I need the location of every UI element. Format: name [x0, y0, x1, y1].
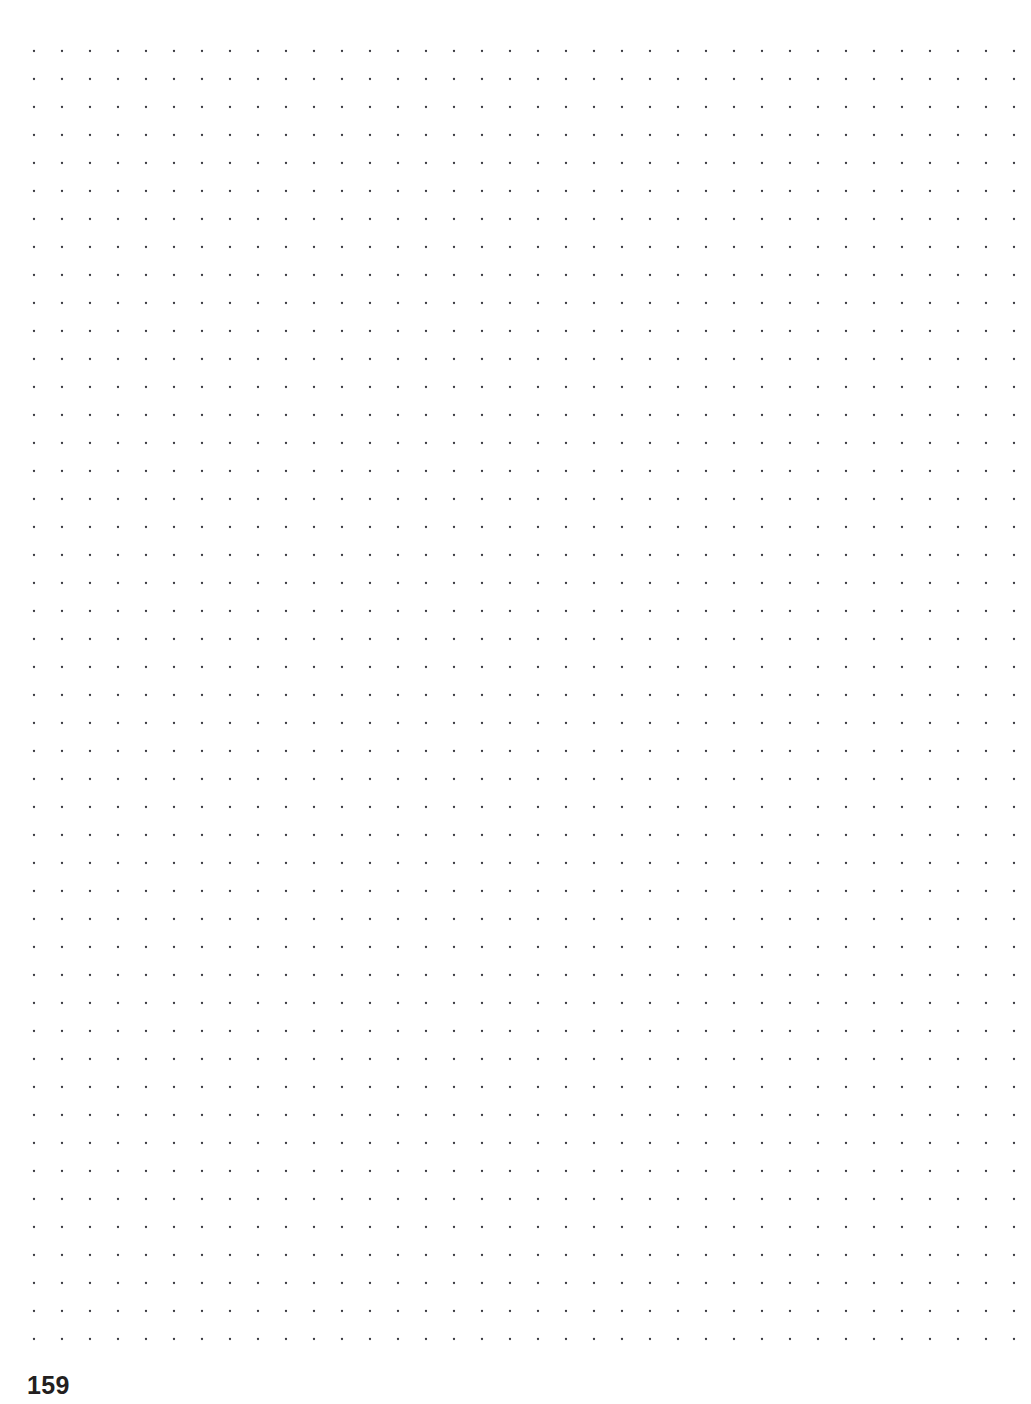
page-number: 159	[27, 1373, 70, 1398]
dot-grid-svg	[0, 0, 1031, 1404]
notebook-page: 159	[0, 0, 1031, 1404]
dot-grid-pattern	[0, 0, 1031, 1404]
